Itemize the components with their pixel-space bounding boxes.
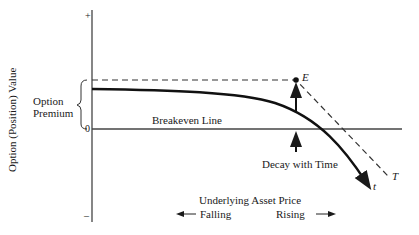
curve-t-label: t [373,180,376,192]
y-plus-label: + [85,10,91,22]
y-axis-label: Option (Position) Value [6,68,18,172]
option-label: Option [33,95,64,107]
falling-label: Falling [200,208,231,220]
y-zero-label: 0 [85,123,90,135]
expiration-curve-T [92,80,388,176]
breakeven-label: Breakeven Line [152,114,222,126]
rising-label: Rising [276,208,305,220]
point-E-label: E [302,71,309,83]
y-minus-label: – [84,210,89,222]
point-E [293,77,299,83]
premium-label: Premium [33,107,73,119]
decay-label: Decay with Time [262,158,338,170]
x-axis-label: Underlying Asset Price [199,194,301,206]
curve-T-label: T [392,170,398,182]
premium-brace [77,80,87,129]
